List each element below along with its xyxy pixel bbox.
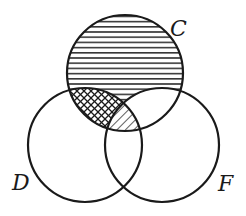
venn-diagram: C D F [0,0,246,216]
label-c: C [170,16,187,41]
label-d: D [11,170,30,195]
label-f: F [217,171,234,196]
